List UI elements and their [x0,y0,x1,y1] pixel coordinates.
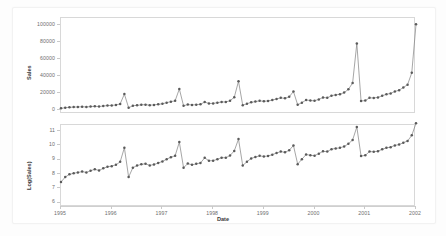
data-point [275,98,278,101]
data-point [356,42,359,45]
data-point [411,72,414,75]
log-series [61,125,416,207]
data-point [136,104,139,107]
data-point [271,99,274,102]
data-point [229,154,232,157]
y-tick-label: 60000 [40,55,55,61]
data-point [187,103,190,106]
data-point [110,104,113,107]
data-point [377,150,380,153]
data-point [241,164,244,167]
x-tick-label: 2001 [358,210,370,216]
data-point [250,157,253,160]
data-point [161,102,164,105]
data-point [347,88,350,91]
data-point [326,150,329,153]
data-point [94,105,97,108]
x-tick-label: 1996 [105,210,117,216]
data-point [110,165,113,168]
data-point [318,98,321,101]
data-point [394,144,397,147]
data-point [60,107,63,110]
data-point [153,163,156,166]
data-point [144,163,147,166]
data-point [322,150,325,153]
data-point [411,134,414,137]
data-point [343,91,346,94]
data-point [64,106,67,109]
data-point [364,154,367,157]
data-point [326,97,329,100]
y-tick-label: 20000 [40,89,55,95]
x-tickmark [415,206,416,209]
data-point [364,99,367,102]
data-point [267,100,270,103]
data-point [343,145,346,148]
data-point [330,148,333,151]
data-point [381,148,384,151]
y-tick-label: 100000 [37,21,55,27]
data-point [351,82,354,85]
x-tick-label: 2002 [409,210,421,216]
data-point [415,23,418,26]
data-point [140,163,143,166]
data-point [98,169,101,172]
data-point [149,164,152,167]
data-point [280,97,283,100]
data-point [72,172,75,175]
data-point [356,126,359,128]
data-point [305,99,308,102]
data-point [203,101,206,104]
data-point [284,151,287,154]
data-point [292,144,295,147]
data-point [98,105,101,108]
y-tick-label: 11 [49,127,55,133]
data-point [85,106,88,109]
data-point [368,97,371,100]
data-point [271,153,274,156]
data-point [339,147,342,150]
data-point [216,158,219,161]
x-tickmark [111,206,112,209]
log-axis-title: Log(Sales) [26,161,32,190]
data-point [212,159,215,162]
data-point [347,143,350,146]
y-tick-label: 40000 [40,72,55,78]
data-point [296,103,299,106]
data-point [170,100,173,103]
data-point [220,156,223,159]
y-tick-label: 80000 [40,38,55,44]
data-point [102,167,105,170]
data-point [301,101,304,104]
data-point [368,150,371,153]
data-point [144,103,147,106]
data-point [263,155,266,158]
x-tickmark [314,206,315,209]
data-point [309,99,312,102]
data-point [237,80,240,83]
data-point [60,181,63,184]
data-point [381,94,384,97]
data-point [81,106,84,109]
data-point [127,106,129,109]
data-point [351,139,354,141]
data-point [203,157,206,160]
data-point [280,150,283,153]
data-point [77,106,80,109]
data-point [64,176,67,179]
data-point [157,103,160,106]
data-point [233,150,236,153]
data-point [330,94,333,97]
sales-plot-area [60,17,415,113]
data-point [208,102,211,105]
data-point [389,146,392,149]
data-point [360,155,363,158]
data-point [182,166,185,169]
series-line [61,24,416,108]
data-point [415,122,418,125]
data-point [254,100,257,103]
data-point [246,160,249,163]
y-tick-label: 10 [49,141,55,147]
chart-figure: Sales 020000400006000080000100000 Log(Sa… [0,0,446,236]
data-point [165,101,168,104]
